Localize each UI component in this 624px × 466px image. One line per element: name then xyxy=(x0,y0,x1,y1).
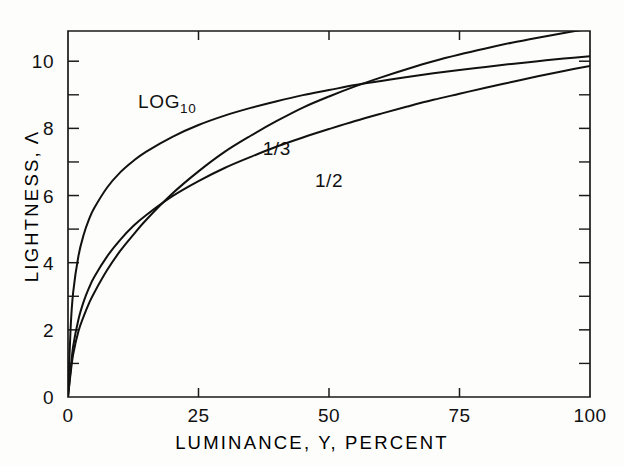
curve-label-log10: LOG10 xyxy=(138,91,196,116)
x-axis-tick-labels: 0255075100 xyxy=(62,405,606,426)
curve-label-one-half: 1/2 xyxy=(315,170,343,191)
y-tick-label-8: 8 xyxy=(43,118,54,139)
x-axis-title-text: LUMINANCE, Y, PERCENT xyxy=(175,432,449,453)
x-tick-label-50: 50 xyxy=(318,405,340,426)
data-curves xyxy=(68,29,590,397)
curve-square-root xyxy=(68,29,590,397)
x-axis-ticks xyxy=(199,31,460,397)
chart-plot-area: 0255075100 0246810 LOG101/31/2 xyxy=(0,0,624,466)
y-tick-label-6: 6 xyxy=(43,186,54,207)
x-tick-label-100: 100 xyxy=(573,405,606,426)
y-tick-label-0: 0 xyxy=(43,387,54,408)
y-axis-title: LIGHTNESS,Λ xyxy=(21,107,43,307)
y-tick-label-10: 10 xyxy=(32,51,54,72)
y-tick-label-2: 2 xyxy=(43,320,54,341)
x-tick-label-25: 25 xyxy=(187,405,209,426)
x-tick-label-0: 0 xyxy=(62,405,73,426)
y-axis-title-symbol: Λ xyxy=(21,132,42,144)
curve-cube-root xyxy=(68,66,590,397)
y-axis-title-text: LIGHTNESS, xyxy=(21,150,42,282)
x-axis-title: LUMINANCE, Y, PERCENT xyxy=(0,432,624,454)
y-tick-label-4: 4 xyxy=(43,253,54,274)
figure-container: 0255075100 0246810 LOG101/31/2 LUMINANCE… xyxy=(0,0,624,466)
x-tick-label-75: 75 xyxy=(448,405,470,426)
curve-label-one-third: 1/3 xyxy=(263,138,291,159)
